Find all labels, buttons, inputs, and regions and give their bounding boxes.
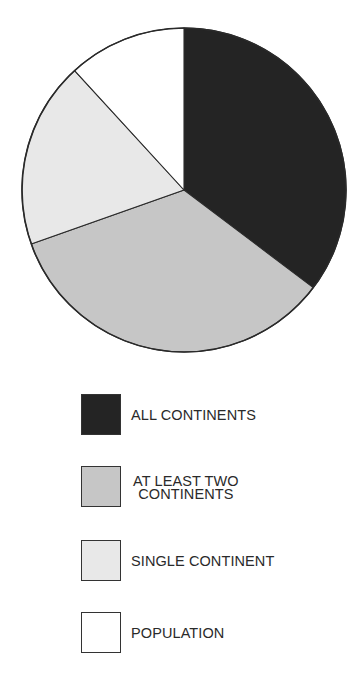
legend-swatch-single-continent xyxy=(81,540,121,581)
legend-item-population: POPULATION xyxy=(81,612,341,655)
legend-label-population: POPULATION xyxy=(131,612,224,655)
legend-item-single-continent: SINGLE CONTINENT xyxy=(81,540,341,583)
legend-swatch-at-least-two-continents xyxy=(81,466,121,507)
legend-swatch-all-continents xyxy=(81,394,121,435)
legend-label-single-continent: SINGLE CONTINENT xyxy=(131,540,274,583)
legend-label-all-continents: ALL CONTINENTS xyxy=(131,394,256,437)
legend-item-at-least-two-continents: AT LEAST TWO CONTINENTS xyxy=(81,466,341,509)
legend-swatch-population xyxy=(81,612,121,653)
legend-item-all-continents: ALL CONTINENTS xyxy=(81,394,341,437)
legend: ALL CONTINENTS AT LEAST TWO CONTINENTS S… xyxy=(0,0,357,676)
legend-label-at-least-two-continents: AT LEAST TWO CONTINENTS xyxy=(133,466,239,509)
